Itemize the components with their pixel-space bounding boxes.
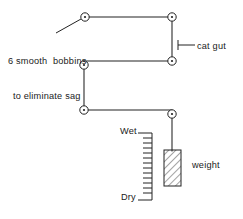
bobbins-annotation-line2: to eliminate sag [13,91,86,103]
scale-label-dry: Dry [121,192,136,204]
bobbins-leader-line [56,19,81,33]
weight-label: weight [192,160,220,172]
figure-canvas: 6 smooth bobbins to eliminate sag cat gu… [0,0,243,219]
weight-block [164,150,181,186]
bobbin-top-left [81,13,89,21]
scale-label-wet: Wet [120,126,137,138]
bobbin-top-right [168,13,176,21]
bobbin-mid-right [168,57,176,65]
bobbins-annotation-line1: 6 smooth bobbins [8,56,86,68]
bobbin-group [80,13,176,118]
bobbins-annotation: 6 smooth bobbins to eliminate sag [8,33,86,125]
cat-gut-label: cat gut [197,41,226,53]
wet-dry-scale [138,133,152,200]
bobbin-lower-right [168,110,176,118]
